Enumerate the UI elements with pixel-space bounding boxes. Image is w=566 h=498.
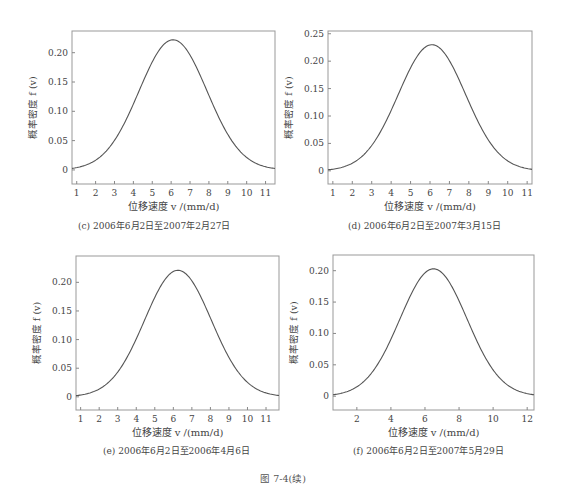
x-tick-label: 9 — [226, 414, 232, 424]
x-tick-label: 6 — [170, 414, 176, 424]
x-tick-label: 5 — [152, 414, 158, 424]
y-tick-label: 0.25 — [304, 29, 324, 39]
y-tick-label: 0.15 — [304, 84, 324, 94]
x-tick-label: 9 — [485, 188, 491, 198]
x-tick-label: 2 — [349, 188, 355, 198]
y-tick-label: 0.20 — [309, 266, 329, 276]
y-axis-label: 概率密度 f (v) — [283, 76, 294, 138]
y-tick-label: 0 — [318, 166, 324, 176]
y-tick-label: 0.05 — [48, 136, 68, 146]
x-tick-label: 8 — [208, 414, 214, 424]
x-tick-label: 11 — [521, 188, 532, 198]
density-curve — [333, 269, 534, 395]
density-curve — [72, 40, 275, 169]
x-tick-label: 3 — [369, 188, 375, 198]
y-tick-label: 0.10 — [52, 335, 72, 345]
plot-frame — [72, 31, 275, 184]
plot-frame — [328, 31, 532, 184]
y-axis-label: 概率密度 f (v) — [31, 302, 42, 364]
x-tick-label: 4 — [388, 414, 394, 424]
chart-panel-f: 2468101200.050.100.150.20位移速度 v /(mm/d)概… — [288, 255, 534, 438]
x-tick-label: 2 — [93, 188, 99, 198]
y-tick-label: 0.10 — [48, 106, 68, 116]
y-tick-label: 0 — [66, 392, 72, 402]
x-axis-label: 位移速度 v /(mm/d) — [128, 200, 220, 212]
x-tick-label: 3 — [115, 414, 121, 424]
y-axis-label: 概率密度 f (v) — [288, 301, 299, 363]
x-tick-label: 10 — [502, 188, 514, 198]
x-tick-label: 6 — [422, 414, 428, 424]
x-tick-label: 10 — [487, 414, 499, 424]
x-tick-label: 6 — [168, 188, 174, 198]
x-tick-label: 11 — [260, 414, 271, 424]
x-tick-label: 7 — [187, 188, 193, 198]
density-curve — [76, 270, 279, 395]
x-tick-label: 3 — [112, 188, 118, 198]
y-tick-label: 0.15 — [52, 306, 72, 316]
x-tick-label: 6 — [427, 188, 433, 198]
y-tick-label: 0.05 — [309, 360, 329, 370]
x-axis-label: 位移速度 v /(mm/d) — [388, 426, 480, 438]
x-tick-label: 5 — [408, 188, 414, 198]
x-tick-label: 2 — [96, 414, 102, 424]
subfigure-caption-e: (e) 2006年6月2日至2006年4月6日 — [103, 444, 250, 457]
plot-frame — [333, 255, 534, 410]
chart-panel-e: 123456789101100.050.100.150.20位移速度 v /(m… — [31, 256, 279, 438]
chart-panel-c: 123456789101100.050.100.150.20位移速度 v /(m… — [27, 31, 275, 212]
y-tick-label: 0.15 — [48, 77, 68, 87]
x-tick-label: 4 — [133, 414, 139, 424]
y-tick-label: 0 — [62, 165, 68, 175]
x-tick-label: 8 — [456, 414, 462, 424]
x-tick-label: 1 — [78, 414, 84, 424]
x-axis-label: 位移速度 v /(mm/d) — [384, 200, 476, 212]
x-tick-label: 8 — [206, 188, 212, 198]
figure-charts: 123456789101100.050.100.150.20位移速度 v /(m… — [0, 0, 566, 498]
x-tick-label: 4 — [131, 188, 137, 198]
x-tick-label: 1 — [330, 188, 336, 198]
x-tick-label: 5 — [149, 188, 155, 198]
chart-panel-d: 123456789101100.050.100.150.200.25位移速度 v… — [283, 29, 533, 212]
y-tick-label: 0.10 — [309, 328, 329, 338]
y-tick-label: 0.15 — [309, 297, 329, 307]
subfigure-caption-f: (f) 2006年6月2日至2007年5月29日 — [353, 444, 504, 457]
x-tick-label: 9 — [225, 188, 231, 198]
y-tick-label: 0 — [323, 391, 329, 401]
x-tick-label: 10 — [242, 414, 254, 424]
subfigure-caption-d: (d) 2006年6月2日至2007年3月15日 — [348, 219, 501, 232]
y-tick-label: 0.20 — [304, 56, 324, 66]
x-tick-label: 12 — [521, 414, 532, 424]
x-tick-label: 7 — [447, 188, 453, 198]
plot-frame — [76, 256, 279, 410]
x-tick-label: 8 — [466, 188, 472, 198]
x-tick-label: 4 — [388, 188, 394, 198]
y-tick-label: 0.05 — [304, 138, 324, 148]
density-curve — [328, 45, 532, 170]
y-tick-label: 0.05 — [52, 363, 72, 373]
x-axis-label: 位移速度 v /(mm/d) — [132, 426, 224, 438]
y-tick-label: 0.20 — [48, 48, 68, 58]
x-tick-label: 2 — [354, 414, 360, 424]
y-tick-label: 0.20 — [52, 277, 72, 287]
x-tick-label: 7 — [189, 414, 195, 424]
figure-caption: 图 7-4(续) — [0, 471, 566, 485]
y-axis-label: 概率密度 f (v) — [27, 76, 38, 138]
x-tick-label: 11 — [260, 188, 271, 198]
y-tick-label: 0.10 — [304, 111, 324, 121]
x-tick-label: 10 — [241, 188, 253, 198]
subfigure-caption-c: (c) 2006年6月2日至2007年2月27日 — [78, 219, 230, 232]
x-tick-label: 1 — [74, 188, 80, 198]
